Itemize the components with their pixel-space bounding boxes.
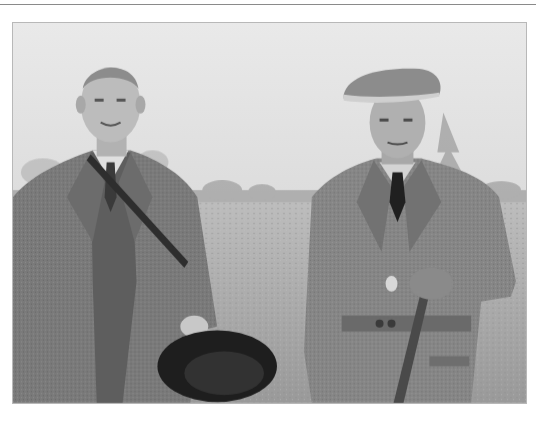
photograph: Two men standing outdoors in a grassy fi… [12,22,527,404]
top-rule-divider [0,4,536,5]
coat-belt [342,315,471,331]
photo-illustration [13,23,526,403]
felt-hat-held [157,330,277,402]
